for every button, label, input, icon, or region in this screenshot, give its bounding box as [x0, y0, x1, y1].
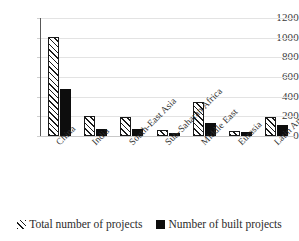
bar-group	[265, 18, 288, 136]
bar-total-projects	[48, 37, 59, 136]
bar-total-projects	[157, 130, 168, 136]
bar-total-projects	[120, 117, 131, 136]
bar-group	[84, 18, 107, 136]
bar-group	[48, 18, 71, 136]
bar-chart: 020040060080010001200 ChinaIndiaSouth-Ea…	[0, 0, 299, 241]
y-tick-mark	[37, 136, 40, 137]
bar-total-projects	[265, 117, 276, 136]
bar-total-projects	[84, 116, 95, 136]
x-axis-labels: ChinaIndiaSouth-East AsiaSub-Saharan Afr…	[41, 140, 295, 202]
legend-label-total: Total number of projects	[29, 218, 142, 230]
hatched-square-icon	[17, 220, 26, 229]
bars-container	[41, 18, 295, 136]
legend-item-total[interactable]: Total number of projects	[17, 218, 142, 230]
chart-legend: Total number of projects Number of built…	[0, 213, 299, 235]
legend-item-built[interactable]: Number of built projects	[156, 218, 281, 230]
solid-square-icon	[156, 220, 165, 229]
bar-group	[120, 18, 143, 136]
legend-label-built: Number of built projects	[168, 218, 281, 230]
bar-total-projects	[229, 131, 240, 136]
